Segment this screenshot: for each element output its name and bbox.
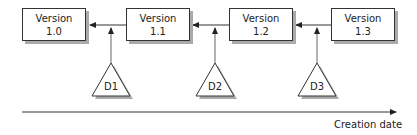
version-box-1-0: Version 1.0	[22, 8, 86, 41]
version-label: Version	[36, 12, 73, 25]
version-number: 1.0	[46, 25, 62, 38]
delta-label-d2: D2	[200, 81, 230, 92]
axis-label: Creation date	[334, 119, 402, 130]
version-number: 1.3	[355, 25, 371, 38]
version-number: 1.2	[253, 25, 269, 38]
version-box-1-2: Version 1.2	[229, 8, 293, 41]
delta-label-d1: D1	[96, 81, 126, 92]
version-box-1-3: Version 1.3	[331, 8, 395, 41]
version-label: Version	[345, 12, 382, 25]
version-label: Version	[140, 12, 177, 25]
version-box-1-1: Version 1.1	[126, 8, 190, 41]
version-label: Version	[243, 12, 280, 25]
delta-label-d3: D3	[302, 81, 332, 92]
version-number: 1.1	[150, 25, 166, 38]
